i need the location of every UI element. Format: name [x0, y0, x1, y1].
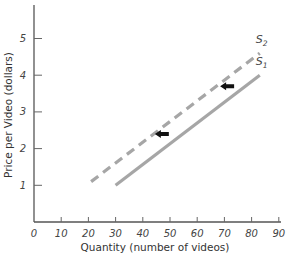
x-tick-label: 90 [272, 228, 285, 239]
x-tick-label: 70 [218, 228, 231, 239]
y-tick-label: 5 [20, 33, 26, 44]
y-tick-label: 3 [20, 106, 26, 117]
x-tick-label: 10 [55, 228, 68, 239]
y-tick-label: 2 [20, 143, 26, 154]
supply-curves: S1S2 [91, 33, 268, 185]
curve-s2 [91, 53, 260, 181]
x-tick-label: 60 [191, 228, 204, 239]
supply-shift-chart: 0102030405060708090 12345 S1S2 Quantity … [0, 0, 288, 258]
y-ticks: 12345 [20, 33, 42, 191]
curve-s1 [116, 75, 260, 185]
y-tick-label: 4 [20, 70, 26, 81]
x-ticks: 0102030405060708090 [31, 217, 285, 239]
x-tick-label: 20 [82, 228, 95, 239]
x-tick-label: 50 [164, 228, 177, 239]
shift-arrows [155, 82, 234, 138]
curve-label-s1: S1 [256, 55, 268, 70]
curve-label-s2: S2 [256, 33, 268, 48]
x-tick-label: 40 [136, 228, 149, 239]
x-tick-label: 30 [109, 228, 122, 239]
x-axis-title: Quantity (number of videos) [81, 241, 230, 253]
x-tick-label: 80 [245, 228, 258, 239]
y-axis-title: Price per Video (dollars) [2, 52, 14, 178]
x-tick-label: 0 [31, 228, 37, 239]
y-tick-label: 1 [20, 180, 26, 191]
left-arrow-icon [220, 82, 234, 90]
